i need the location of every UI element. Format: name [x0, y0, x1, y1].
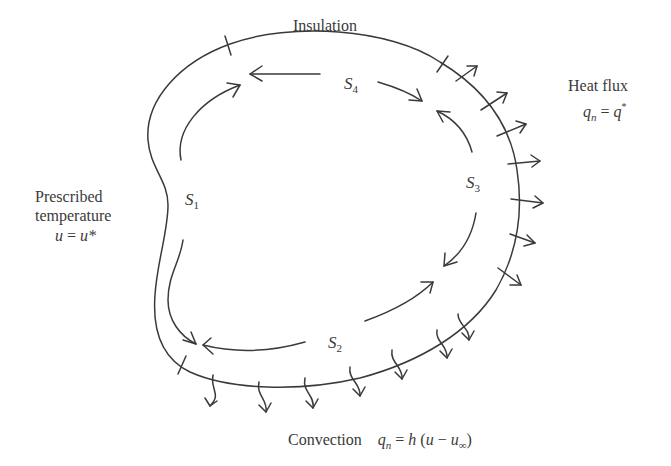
s1-down-arrow [168, 240, 196, 344]
s3-down-arrow [444, 213, 476, 266]
heat-flux-label: Heat flux [568, 76, 628, 95]
diagram-canvas: Insulation Heat flux qn = q* Prescribed … [0, 0, 671, 466]
segment-tick-s4-s3 [437, 56, 448, 72]
prescribed-label-line1: Prescribed [35, 187, 103, 206]
segment-label-s4: S4 [344, 74, 358, 99]
segment-label-s2: S2 [328, 333, 342, 358]
prescribed-equation: u = u* [55, 226, 96, 245]
prescribed-label-line2: temperature [35, 206, 111, 225]
convection-equation: Convectionqn = h (u − u∞) [288, 430, 472, 455]
insulation-label: Insulation [293, 16, 357, 35]
s1-up-arrow [180, 85, 240, 160]
segment-label-s1: S1 [185, 190, 199, 215]
s4-right-arrow [378, 82, 422, 101]
s3-up-arrow [437, 111, 472, 152]
convection-arrows [205, 314, 474, 412]
s2-left-arrow [203, 342, 305, 350]
s2-right-arrow [365, 282, 433, 321]
segment-label-s3: S3 [466, 173, 480, 198]
boundary-diagram [0, 0, 671, 466]
heat-flux-equation: qn = q* [583, 97, 627, 127]
